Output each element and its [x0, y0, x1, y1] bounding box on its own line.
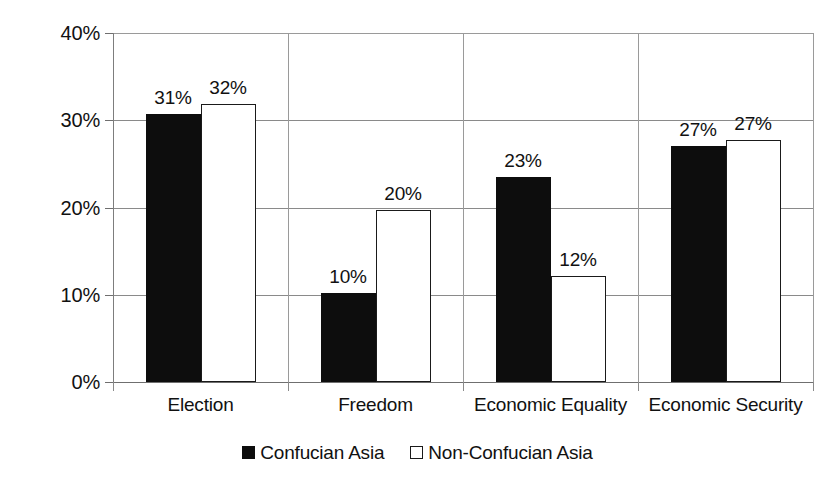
category-separator-line	[638, 33, 639, 382]
legend-item[interactable]: Confucian Asia	[242, 443, 384, 462]
bar-value-label: 23%	[476, 151, 571, 170]
x-tick-mark	[638, 382, 639, 391]
x-axis-category-label: Election	[113, 394, 288, 416]
bar	[376, 210, 431, 382]
y-tick-mark	[105, 208, 113, 209]
legend-item-label: Confucian Asia	[260, 443, 384, 462]
category-separator-line	[463, 33, 464, 382]
x-axis-category-label: Economic Security	[638, 394, 813, 416]
y-tick-mark	[105, 295, 113, 296]
x-tick-mark	[463, 382, 464, 391]
bar-value-label: 32%	[181, 78, 276, 97]
y-axis-line	[113, 33, 114, 383]
x-tick-mark	[813, 382, 814, 391]
bar	[496, 177, 551, 382]
x-axis-category-label: Freedom	[288, 394, 463, 416]
bar	[551, 276, 606, 382]
y-axis-tick-label: 10%	[8, 285, 100, 305]
y-axis-tick-label: 20%	[8, 198, 100, 218]
y-tick-mark	[105, 33, 113, 34]
outlined-square-white-icon	[410, 446, 423, 459]
y-axis-tick-label: 30%	[8, 110, 100, 130]
bar	[146, 114, 201, 382]
y-tick-mark	[105, 120, 113, 121]
bar	[321, 293, 376, 382]
bar	[201, 104, 256, 382]
bar	[726, 140, 781, 382]
legend-item-label: Non-Confucian Asia	[428, 443, 592, 462]
bar-chart: 0%10%20%30%40% 31%32%10%20%23%12%27%27% …	[0, 0, 835, 478]
bar	[671, 146, 726, 382]
legend-item[interactable]: Non-Confucian Asia	[410, 443, 592, 462]
bar-value-label: 20%	[356, 184, 451, 203]
x-tick-mark	[113, 382, 114, 391]
y-tick-mark	[105, 382, 113, 383]
x-axis-category-label: Economic Equality	[463, 394, 638, 416]
bar-value-label: 12%	[531, 250, 626, 269]
y-axis-tick-label: 40%	[8, 23, 100, 43]
x-tick-mark	[288, 382, 289, 391]
category-separator-line	[813, 33, 814, 382]
bar-value-label: 27%	[706, 114, 801, 133]
category-separator-line	[288, 33, 289, 382]
chart-legend: Confucian AsiaNon-Confucian Asia	[0, 443, 835, 462]
y-axis-tick-label: 0%	[8, 372, 100, 392]
filled-square-black-icon	[242, 446, 255, 459]
